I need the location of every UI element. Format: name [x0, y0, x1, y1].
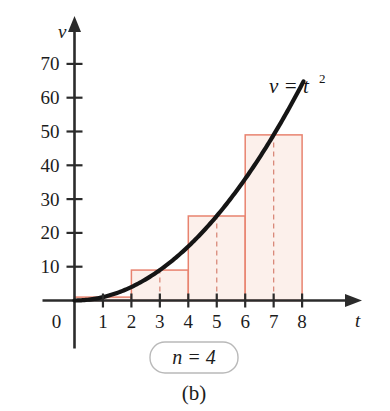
x-axis-tick-label: 8: [297, 311, 307, 332]
x-axis-tick-label: 6: [240, 311, 250, 332]
riemann-sum-chart: 10203040506070012345678 v = t 2 v t n = …: [0, 0, 390, 411]
curve-equation-label: v = t 2: [269, 71, 326, 98]
x-axis-tick-label: 4: [184, 311, 194, 332]
x-axis-tick-label: 1: [98, 311, 108, 332]
y-axis-tick-label: 10: [41, 256, 60, 277]
curve-equation-text: v = t: [269, 74, 310, 98]
n-value-badge: n = 4: [150, 342, 238, 373]
y-axis-tick-label: 20: [41, 222, 60, 243]
y-axis-arrowhead: [68, 16, 81, 32]
n-value-badge-label: n = 4: [172, 346, 216, 368]
x-axis-tick-label: 0: [52, 311, 62, 332]
x-axis-arrowhead: [345, 294, 362, 307]
x-axis-tick-label: 7: [269, 311, 279, 332]
figure-container: 10203040506070012345678 v = t 2 v t n = …: [0, 0, 390, 411]
y-axis-tick-label: 60: [41, 87, 60, 108]
y-axis-tick-label: 30: [41, 189, 60, 210]
curve-equation-exponent: 2: [319, 71, 326, 86]
y-axis-tick-label: 70: [41, 53, 60, 74]
y-axis-tick-label: 50: [41, 121, 60, 142]
x-axis-tick-label: 3: [155, 311, 165, 332]
x-axis-label: t: [355, 310, 361, 331]
x-axis-tick-label: 2: [127, 311, 137, 332]
y-axis-label: v: [58, 21, 67, 42]
figure-caption: (b): [182, 381, 207, 405]
x-axis-tick-label: 5: [212, 311, 222, 332]
riemann-bars-group: [75, 135, 303, 301]
y-axis-tick-label: 40: [41, 155, 60, 176]
